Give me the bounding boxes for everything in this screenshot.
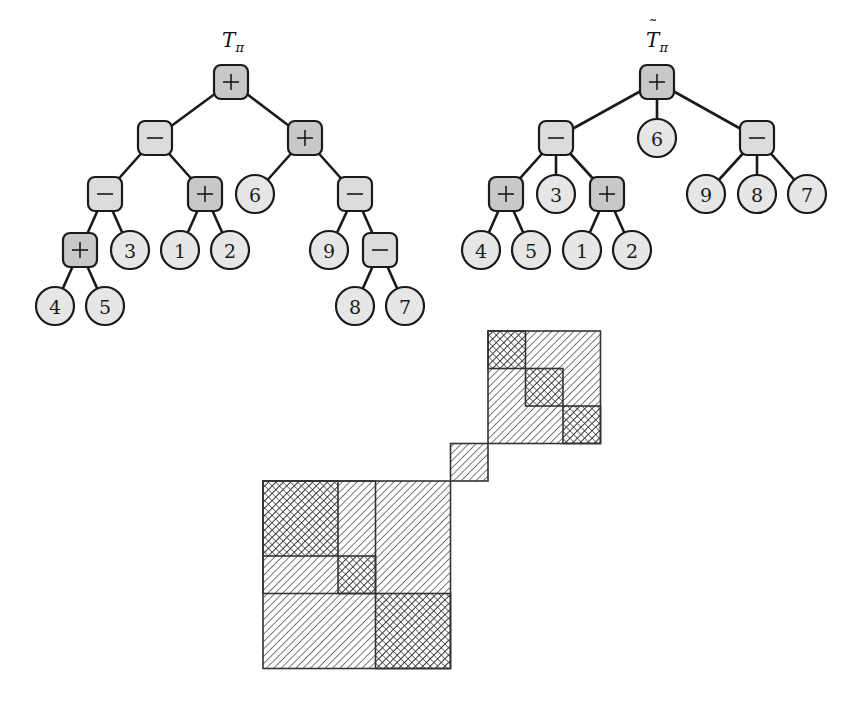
- leaf-node: 9: [687, 175, 725, 213]
- figure-canvas: Tπ 631294587 Tπ 639874512 ˜: [0, 0, 858, 710]
- leaf-label: 8: [751, 184, 763, 206]
- leaf-node: 2: [211, 231, 249, 269]
- tree-edges: [481, 82, 807, 250]
- tree-T: Tπ 631294587: [36, 28, 424, 325]
- tree-title-T: Tπ: [222, 28, 244, 55]
- minus-node: [539, 121, 573, 155]
- leaf-label: 7: [801, 184, 813, 206]
- leaf-node: 7: [788, 175, 826, 213]
- title-tilde: ˜: [649, 16, 658, 37]
- block-top-right-cell-3: [563, 406, 601, 444]
- leaf-node: 5: [86, 287, 124, 325]
- leaf-label: 3: [124, 240, 136, 262]
- minus-node: [88, 177, 122, 211]
- leaf-label: 3: [550, 184, 562, 206]
- block-bottom-left-cell-1: [263, 481, 338, 556]
- leaf-label: 9: [323, 240, 335, 262]
- leaf-node: 8: [738, 175, 776, 213]
- leaf-label: 6: [249, 184, 261, 206]
- minus-node: [138, 121, 172, 155]
- leaf-label: 1: [576, 240, 588, 262]
- block-top-right-cell-2: [526, 369, 564, 407]
- leaf-label: 4: [475, 240, 487, 262]
- leaf-label: 6: [651, 128, 663, 150]
- minus-node: [363, 233, 397, 267]
- leaf-label: 5: [525, 240, 537, 262]
- plus-node: [489, 177, 523, 211]
- tree-nodes: 631294587: [36, 65, 424, 325]
- block-bottom-left-cell-3: [376, 594, 451, 669]
- leaf-node: 6: [638, 119, 676, 157]
- tree-nodes: 639874512: [462, 65, 826, 269]
- plus-node: [63, 233, 97, 267]
- leaf-node: 7: [386, 287, 424, 325]
- leaf-node: 8: [336, 287, 374, 325]
- plus-node: [640, 65, 674, 99]
- block-middle-single: [451, 444, 489, 482]
- leaf-label: 8: [349, 296, 361, 318]
- tree-T-tilde: Tπ 639874512 ˜: [462, 16, 826, 269]
- plus-node: [288, 121, 322, 155]
- leaf-label: 2: [626, 240, 638, 262]
- title-subscript: π: [234, 40, 244, 55]
- plus-node: [188, 177, 222, 211]
- leaf-node: 2: [613, 231, 651, 269]
- leaf-node: 3: [537, 175, 575, 213]
- leaf-node: 4: [462, 231, 500, 269]
- plus-node: [214, 65, 248, 99]
- leaf-label: 2: [224, 240, 236, 262]
- leaf-node: 4: [36, 287, 74, 325]
- block-bottom-left-cell-2: [338, 556, 376, 594]
- leaf-label: 4: [49, 296, 61, 318]
- leaf-node: 1: [563, 231, 601, 269]
- leaf-node: 5: [512, 231, 550, 269]
- leaf-label: 5: [99, 296, 111, 318]
- leaf-node: 9: [310, 231, 348, 269]
- title-subscript: π: [658, 40, 668, 55]
- leaf-node: 3: [111, 231, 149, 269]
- minus-node: [338, 177, 372, 211]
- leaf-node: 6: [236, 175, 274, 213]
- leaf-label: 9: [700, 184, 712, 206]
- plus-node: [590, 177, 624, 211]
- block-top-right-cell-1: [488, 331, 526, 369]
- block-matrix: [263, 331, 601, 669]
- leaf-label: 1: [174, 240, 186, 262]
- minus-node: [740, 121, 774, 155]
- leaf-label: 7: [399, 296, 411, 318]
- leaf-node: 1: [161, 231, 199, 269]
